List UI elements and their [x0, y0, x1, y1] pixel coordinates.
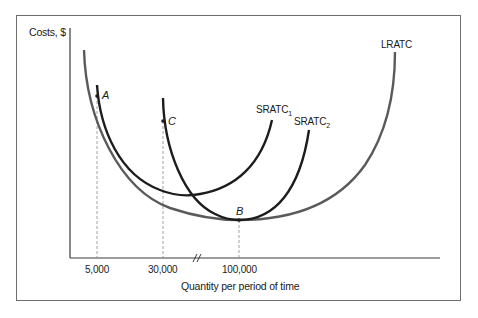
x-tick-5000: 5,000 [85, 264, 109, 275]
x-axis-label: Quantity per period of time [181, 280, 299, 292]
point-a-marker [95, 94, 99, 98]
sratc1-label-sub: 1 [288, 110, 292, 117]
sratc2-label-main: SRATC [294, 116, 326, 127]
sratc1-label: SRATC1 [256, 104, 292, 115]
sratc2-label: SRATC2 [294, 116, 330, 127]
point-c-label: C [168, 115, 176, 127]
point-a-label: A [102, 89, 109, 101]
x-tick-30000: 30,000 [148, 264, 177, 275]
point-c-marker [161, 119, 165, 123]
point-b-marker [237, 218, 241, 222]
sratc2-label-sub: 2 [326, 122, 330, 129]
point-b-label: B [236, 205, 243, 217]
x-tick-100000: 100,000 [222, 264, 257, 275]
sratc1-label-main: SRATC [256, 104, 288, 115]
lratc-curve [84, 50, 395, 220]
y-axis-label: Costs, $ [29, 26, 66, 38]
sratc1-curve [97, 85, 272, 195]
lratc-label: LRATC [381, 39, 412, 50]
